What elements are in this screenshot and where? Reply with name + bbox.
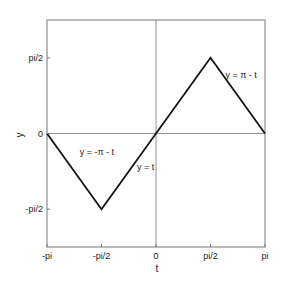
chart: -pi-pi/20pi/2pi -pi/20pi/2 y = -π - ty =… [0, 0, 289, 283]
x-tick-label: 0 [153, 251, 158, 261]
x-tick-label: -pi [42, 251, 52, 261]
y-tick-label: pi/2 [28, 53, 43, 63]
y-axis-ticks: -pi/20pi/2 [25, 53, 50, 214]
y-axis-label: y [14, 133, 25, 138]
line-annotation: y = -π - t [80, 147, 115, 157]
x-tick-label: pi/2 [203, 251, 218, 261]
x-tick-label: -pi/2 [93, 251, 111, 261]
line-annotation: y = t [137, 162, 155, 172]
y-tick-label: 0 [38, 129, 43, 139]
y-tick-label: -pi/2 [25, 204, 43, 214]
x-tick-label: pi [261, 251, 268, 261]
x-axis-label: t [156, 263, 159, 274]
line-annotation: y = π - t [225, 70, 257, 80]
